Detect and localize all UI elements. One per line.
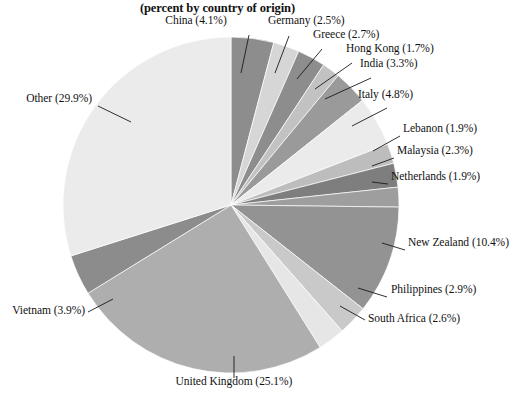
- pie-label-philippines: Philippines (2.9%): [391, 283, 476, 295]
- pie-label-india: India (3.3%): [360, 57, 418, 69]
- pie-label-netherlands: Netherlands (1.9%): [391, 170, 480, 182]
- pie-label-hong-kong: Hong Kong (1.7%): [346, 42, 434, 54]
- pie-label-vietnam: Vietnam (3.9%): [12, 304, 85, 316]
- pie-label-new-zealand: New Zealand (10.4%): [408, 236, 509, 248]
- pie-label-south-africa: South Africa (2.6%): [368, 312, 460, 324]
- pie-label-lebanon: Lebanon (1.9%): [403, 122, 477, 134]
- pie-label-china: China (4.1%): [96, 14, 296, 26]
- pie-label-united-kingdom: United Kingdom (25.1%): [134, 375, 334, 387]
- pie-label-malaysia: Malaysia (2.3%): [397, 144, 473, 156]
- pie-chart-svg: [0, 0, 525, 405]
- pie-label-greece: Greece (2.7%): [313, 28, 379, 40]
- pie-slices-group: [63, 37, 399, 373]
- pie-chart-figure: (percent by country of origin) China (4.…: [0, 0, 525, 405]
- pie-label-other: Other (29.9%): [26, 92, 92, 104]
- pie-label-italy: Italy (4.8%): [358, 88, 413, 100]
- pie-label-germany: Germany (2.5%): [268, 14, 345, 26]
